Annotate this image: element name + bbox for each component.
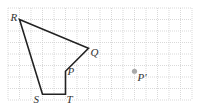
grid xyxy=(8,8,192,100)
label-q: Q xyxy=(91,46,99,58)
label-s: S xyxy=(34,93,40,105)
label-r: R xyxy=(10,11,18,23)
point-p-prime xyxy=(132,69,137,74)
label-p-prime: P′ xyxy=(137,71,148,83)
diagram-canvas: R Q P S T P′ xyxy=(0,0,204,109)
label-t: T xyxy=(67,93,74,105)
label-p: P xyxy=(67,65,75,77)
